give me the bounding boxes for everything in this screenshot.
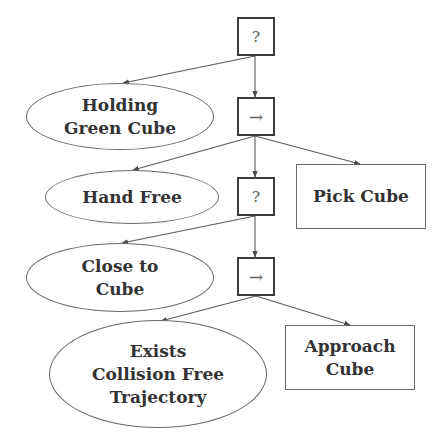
sequence-symbol: → (249, 267, 263, 287)
action-pick-cube: Pick Cube (296, 164, 426, 229)
condition-label: Close to Cube (82, 255, 159, 301)
edge-seq1-to-pickcube (255, 136, 360, 164)
condition-label: Exists Collision Free Trajectory (92, 340, 224, 409)
fallback-symbol: ? (252, 28, 260, 46)
condition-label: Holding Green Cube (64, 94, 176, 140)
fallback-symbol: ? (252, 188, 260, 206)
sequence-symbol: → (249, 107, 263, 127)
fallback-2-node: ? (237, 177, 275, 216)
condition-holding-green-cube: Holding Green Cube (26, 83, 214, 150)
action-label: Pick Cube (313, 185, 409, 208)
condition-label: Hand Free (82, 186, 182, 209)
behavior-tree-diagram: ? Holding Green Cube → Hand Free ? Pick … (0, 0, 444, 440)
action-label: Approach Cube (305, 335, 396, 381)
condition-close-to-cube: Close to Cube (26, 243, 214, 312)
action-approach-cube: Approach Cube (285, 325, 415, 390)
root-fallback-node: ? (237, 17, 275, 56)
condition-hand-free: Hand Free (45, 170, 219, 224)
edge-seq2-to-approach (256, 296, 350, 325)
edge-root-to-holding (123, 56, 255, 83)
sequence-1-node: → (237, 97, 275, 136)
sequence-2-node: → (237, 257, 275, 296)
condition-exists-collision-free-trajectory: Exists Collision Free Trajectory (49, 320, 267, 428)
